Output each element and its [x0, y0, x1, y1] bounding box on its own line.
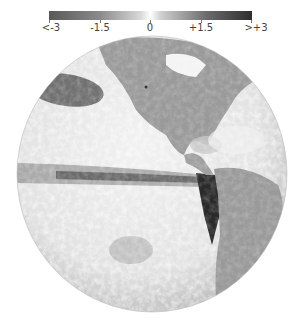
colorbar-label-zero: 0 — [147, 22, 153, 33]
colorbar-label-neg: -1.5 — [90, 22, 110, 33]
colorbar-label-min: <-3 — [42, 22, 60, 33]
globe-map — [16, 35, 288, 313]
colorbar-label-pos: +1.5 — [189, 22, 213, 33]
colorbar-gradient — [49, 11, 252, 20]
colorbar-label-max: >+3 — [244, 22, 267, 33]
